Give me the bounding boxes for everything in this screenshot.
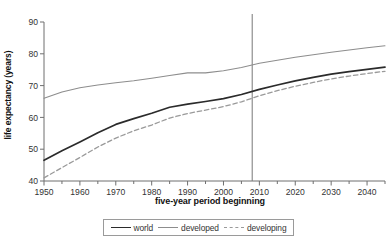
legend-label-developing: developing (247, 223, 287, 233)
legend-item-developing: developing (224, 223, 287, 233)
y-tick-label: 80 (28, 49, 38, 59)
legend-item-developed: developed (158, 223, 219, 233)
legend-item-world: world (111, 223, 154, 233)
series-line-world (44, 67, 385, 160)
life-expectancy-chart: life expectancy (years) 4050607080901950… (0, 0, 391, 244)
series-line-developed (44, 46, 385, 98)
y-tick-label: 40 (28, 176, 38, 186)
chart-legend: world developed developing (103, 219, 294, 236)
legend-label-world: world (134, 223, 154, 233)
y-tick-label: 90 (28, 17, 38, 27)
y-tick-label: 60 (28, 113, 38, 123)
plot-area: 4050607080901950196019701980199020002010… (0, 0, 391, 200)
series-line-developing (44, 71, 385, 178)
legend-swatch-developed-icon (158, 224, 178, 231)
y-tick-label: 50 (28, 144, 38, 154)
legend-label-developed: developed (181, 223, 219, 233)
legend-swatch-developing-icon (224, 224, 244, 231)
y-tick-label: 70 (28, 81, 38, 91)
legend-swatch-world-icon (111, 224, 131, 231)
x-axis-label: five-year period beginning (35, 196, 385, 206)
